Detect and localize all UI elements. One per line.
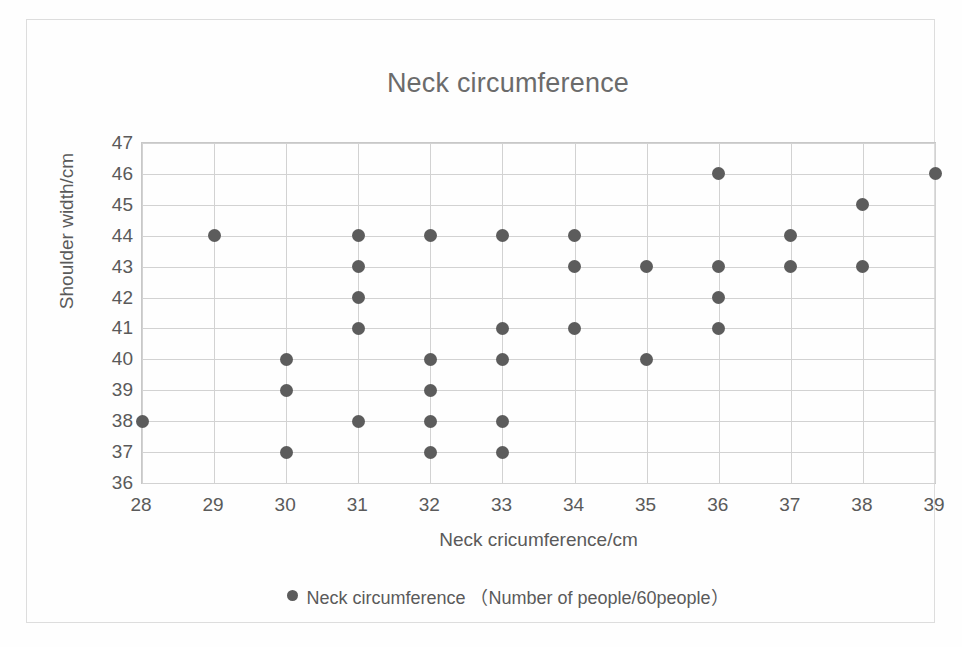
scatter-point <box>136 415 149 428</box>
x-tick-label-33: 33 <box>471 494 531 516</box>
y-tick-label-36: 36 <box>93 473 133 492</box>
x-axis-title: Neck cricumference/cm <box>141 529 936 551</box>
scatter-point <box>352 291 365 304</box>
chart-legend: Neck circumference （Number of people/60p… <box>27 583 962 609</box>
x-tick-label-30: 30 <box>255 494 315 516</box>
scatter-point <box>568 229 581 242</box>
y-tick-label-47: 47 <box>93 133 133 152</box>
gridline-x-37 <box>791 143 792 483</box>
gridline-x-33 <box>502 143 503 483</box>
scatter-point <box>496 353 509 366</box>
y-tick-label-43: 43 <box>93 257 133 276</box>
y-tick-label-40: 40 <box>93 349 133 368</box>
x-tick-label-36: 36 <box>688 494 748 516</box>
x-axis-tick-labels: 282930313233343536373839 <box>141 494 936 520</box>
scatter-point <box>424 384 437 397</box>
gridline-y-43 <box>142 267 935 268</box>
x-tick-label-39: 39 <box>904 494 962 516</box>
scatter-point <box>352 260 365 273</box>
gridline-y-41 <box>142 328 935 329</box>
x-tick-label-35: 35 <box>616 494 676 516</box>
gridline-x-38 <box>863 143 864 483</box>
gridline-y-40 <box>142 359 935 360</box>
scatter-point <box>496 229 509 242</box>
legend-marker-icon <box>287 590 298 601</box>
gridline-x-31 <box>358 143 359 483</box>
scatter-point <box>352 415 365 428</box>
legend-label: Neck circumference （Number of people/60p… <box>306 588 728 608</box>
scatter-point <box>856 260 869 273</box>
y-tick-label-37: 37 <box>93 442 133 461</box>
scatter-point <box>352 322 365 335</box>
scatter-point <box>208 229 221 242</box>
gridline-y-44 <box>142 236 935 237</box>
scatter-point <box>784 229 797 242</box>
gridline-y-38 <box>142 421 935 422</box>
scatter-point <box>352 229 365 242</box>
x-tick-label-32: 32 <box>399 494 459 516</box>
scatter-point <box>640 353 653 366</box>
scatter-point <box>712 322 725 335</box>
scatter-point <box>280 446 293 459</box>
x-tick-label-28: 28 <box>111 494 171 516</box>
y-axis-tick-labels: 363738394041424344454647 <box>89 142 133 484</box>
scatter-point <box>424 353 437 366</box>
scatter-point <box>424 446 437 459</box>
scatter-point <box>856 198 869 211</box>
scatter-point <box>568 260 581 273</box>
x-tick-label-29: 29 <box>183 494 243 516</box>
scatter-point <box>424 229 437 242</box>
gridline-x-34 <box>575 143 576 483</box>
gridline-y-42 <box>142 298 935 299</box>
scatter-point <box>496 322 509 335</box>
x-tick-label-31: 31 <box>327 494 387 516</box>
gridline-y-47 <box>142 143 935 144</box>
y-tick-label-38: 38 <box>93 411 133 430</box>
y-tick-label-42: 42 <box>93 288 133 307</box>
chart-title: Neck circumference <box>27 68 962 99</box>
gridline-y-36 <box>142 483 935 484</box>
y-tick-label-41: 41 <box>93 318 133 337</box>
gridline-x-29 <box>214 143 215 483</box>
scatter-point <box>496 446 509 459</box>
gridline-x-30 <box>286 143 287 483</box>
plot-area <box>141 142 936 484</box>
scatter-point <box>929 167 942 180</box>
gridline-y-39 <box>142 390 935 391</box>
scatter-point <box>712 291 725 304</box>
y-tick-label-44: 44 <box>93 226 133 245</box>
chart-frame: Neck circumference Shoulder width/cm 363… <box>26 19 935 623</box>
y-tick-label-46: 46 <box>93 164 133 183</box>
scatter-point <box>712 260 725 273</box>
x-tick-label-38: 38 <box>832 494 892 516</box>
scatter-point <box>496 415 509 428</box>
y-axis-title: Shoulder width/cm <box>56 101 78 361</box>
gridline-x-35 <box>647 143 648 483</box>
gridline-y-45 <box>142 205 935 206</box>
scatter-point <box>568 322 581 335</box>
scatter-point <box>424 415 437 428</box>
gridline-x-32 <box>430 143 431 483</box>
gridline-x-39 <box>935 143 936 483</box>
scatter-point <box>712 167 725 180</box>
gridline-x-28 <box>142 143 143 483</box>
gridline-x-36 <box>719 143 720 483</box>
y-tick-label-45: 45 <box>93 195 133 214</box>
x-tick-label-37: 37 <box>760 494 820 516</box>
scatter-point <box>784 260 797 273</box>
gridline-y-46 <box>142 174 935 175</box>
scatter-point <box>280 384 293 397</box>
y-tick-label-39: 39 <box>93 380 133 399</box>
scatter-point <box>640 260 653 273</box>
gridline-y-37 <box>142 452 935 453</box>
x-tick-label-34: 34 <box>544 494 604 516</box>
scatter-point <box>280 353 293 366</box>
